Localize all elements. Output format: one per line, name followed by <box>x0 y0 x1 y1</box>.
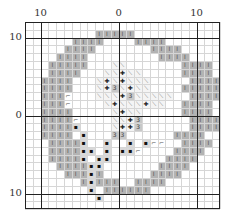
grid-frame <box>25 22 220 209</box>
top-axis-label: 10 <box>34 7 47 18</box>
grid-line <box>25 209 220 210</box>
stitch-chart: 1001010010 IIIIIIIIIIIIIIIIIIIIIIIIIIIII… <box>0 0 232 221</box>
top-axis-label: 10 <box>190 7 203 18</box>
top-axis-label: 0 <box>115 7 121 18</box>
pattern-grid: IIIIIIIIIIIIIIIIIIIIIIIIIIIIIIIIII⟍⟍IIII… <box>25 22 220 209</box>
grid-line <box>220 22 221 209</box>
left-axis-label: 10 <box>9 31 22 42</box>
left-axis-label: 0 <box>16 109 22 120</box>
left-axis-label: 10 <box>9 187 22 198</box>
